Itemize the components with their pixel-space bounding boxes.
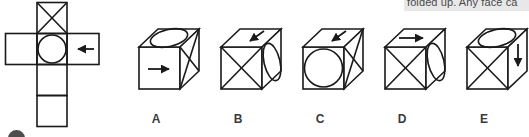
option-label-d: D bbox=[392, 112, 412, 126]
net-cell-below-center bbox=[37, 65, 67, 96]
option-label-e: E bbox=[474, 112, 494, 126]
option-cube-a[interactable] bbox=[139, 25, 199, 89]
option-label-b: B bbox=[228, 112, 248, 126]
option-cube-e[interactable] bbox=[467, 25, 527, 89]
instruction-tooltip: folded up. Any face ca bbox=[404, 0, 529, 11]
cube-net bbox=[6, 3, 100, 127]
cube-folding-figure bbox=[0, 0, 529, 137]
net-cell-top bbox=[37, 3, 67, 34]
net-cell-left bbox=[6, 34, 38, 65]
net-cell-right bbox=[67, 34, 99, 65]
option-label-a: A bbox=[146, 112, 166, 126]
figure-canvas: A B C D E folded up. Any face ca bbox=[0, 0, 529, 137]
option-cube-c[interactable] bbox=[303, 29, 363, 89]
net-cell-bottom bbox=[37, 96, 67, 127]
option-cube-b[interactable] bbox=[221, 29, 284, 89]
net-cell-center bbox=[37, 34, 67, 65]
option-cube-d[interactable] bbox=[385, 29, 448, 89]
option-label-c: C bbox=[310, 112, 330, 126]
